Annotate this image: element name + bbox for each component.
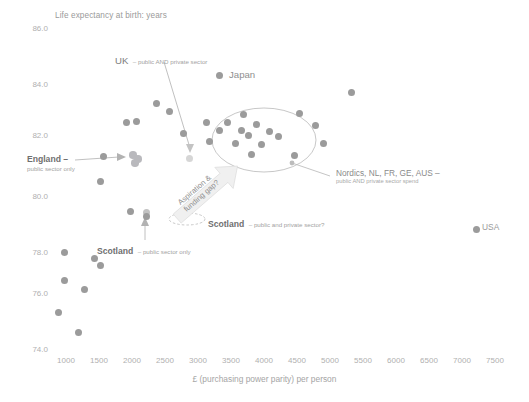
data-point (312, 122, 319, 129)
data-point (291, 152, 298, 159)
data-point (240, 111, 247, 118)
chart-vector-layer (0, 0, 529, 402)
data-point (180, 130, 187, 137)
data-point (266, 128, 273, 135)
data-point (275, 133, 282, 140)
annotation-nordics-sub: public AND private sector spend (336, 178, 440, 184)
data-point (248, 151, 255, 158)
data-point (143, 213, 150, 220)
data-point (206, 138, 213, 145)
data-point (97, 262, 104, 269)
data-point (258, 141, 265, 148)
annotation-scotland-both: Scotland – public and private sector? (208, 213, 324, 231)
data-point (216, 127, 223, 134)
annotation-scotland-public-header: Scotland (97, 246, 133, 256)
scatter-chart: Life expectancy at birth: years 86.0 84.… (0, 0, 529, 402)
data-point (296, 110, 303, 117)
data-point-usa (473, 226, 480, 233)
uk-arrowhead (186, 144, 194, 153)
data-point (123, 119, 130, 126)
data-point (61, 249, 68, 256)
data-point (253, 121, 260, 128)
label-japan: Japan (229, 69, 255, 80)
data-point-uk (186, 155, 193, 162)
data-point-japan (216, 72, 223, 79)
data-point (348, 89, 355, 96)
data-point (97, 178, 104, 185)
data-point (61, 277, 68, 284)
annotation-uk: UK – public AND private sector (115, 50, 207, 68)
data-point (320, 140, 327, 147)
annotation-nordics-header: Nordics, NL, FR, GE, AUS – (336, 168, 440, 178)
data-point (224, 119, 231, 126)
annotation-scotland-both-sub: – public and private sector? (249, 221, 325, 228)
annotation-england-sub: public sector only (27, 165, 75, 172)
data-point (166, 108, 173, 115)
data-point (245, 132, 252, 139)
data-point (232, 140, 239, 147)
data-point (203, 119, 210, 126)
annotation-nordics: Nordics, NL, FR, GE, AUS – public AND pr… (336, 168, 440, 184)
data-point (100, 153, 107, 160)
annotation-england-header: England – (27, 155, 75, 165)
data-point (153, 100, 160, 107)
england-leader-line (75, 157, 119, 160)
annotation-uk-header: UK (115, 55, 128, 66)
data-point (75, 329, 82, 336)
nordics-ellipse (212, 108, 316, 172)
data-point-england (131, 159, 139, 167)
data-point (238, 127, 245, 134)
data-point (133, 118, 140, 125)
data-point (81, 286, 88, 293)
annotation-scotland-public-sub: – public sector only (138, 248, 191, 255)
data-point (55, 309, 62, 316)
annotation-scotland-public: Scotland – public sector only (97, 240, 191, 258)
data-point (127, 208, 134, 215)
nordics-leader-dot (290, 161, 295, 166)
label-usa: USA (482, 222, 499, 232)
annotation-uk-sub: – public AND private sector (133, 58, 208, 65)
annotation-england: England – public sector only (27, 155, 75, 172)
england-arrowhead (117, 153, 126, 161)
nordics-leader-line (292, 163, 330, 176)
annotation-scotland-both-header: Scotland (208, 219, 244, 229)
